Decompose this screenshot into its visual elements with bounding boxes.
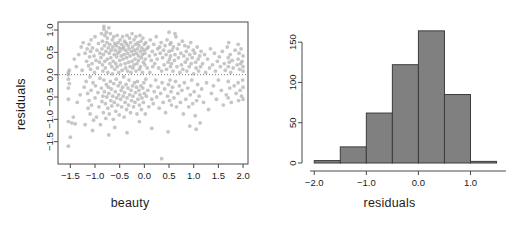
scatter-point — [67, 82, 71, 86]
scatter-point — [186, 86, 190, 90]
scatter-point — [218, 65, 222, 69]
scatter-x-axis-title: beauty — [0, 196, 260, 210]
scatter-point — [115, 96, 119, 100]
scatter-point — [101, 94, 105, 98]
scatter-point — [144, 94, 148, 98]
scatter-point — [219, 88, 223, 92]
scatter-point — [124, 66, 128, 70]
scatter-point — [121, 94, 125, 98]
scatter-point — [102, 78, 106, 82]
scatter-point — [164, 53, 168, 57]
scatter-point — [143, 112, 147, 116]
scatter-point — [101, 69, 105, 73]
scatter-point — [122, 75, 126, 79]
scatter-x-tick-label: −1.0 — [86, 170, 105, 181]
scatter-point — [225, 45, 229, 49]
scatter-point — [87, 64, 91, 68]
scatter-point — [102, 111, 106, 115]
scatter-point — [181, 112, 185, 116]
scatter-point — [98, 60, 102, 64]
scatter-point — [150, 50, 154, 54]
scatter-point — [89, 88, 93, 92]
scatter-point — [209, 47, 213, 51]
scatter-point — [136, 79, 140, 83]
scatter-point — [167, 83, 171, 87]
scatter-point — [128, 36, 132, 40]
scatter-point — [199, 50, 203, 54]
scatter-point — [68, 135, 72, 139]
scatter-point — [137, 59, 141, 63]
histogram-x-axis-title: residuals — [260, 196, 519, 210]
scatter-point — [124, 48, 128, 52]
scatter-point — [131, 84, 135, 88]
scatter-point — [171, 69, 175, 73]
scatter-point — [112, 100, 116, 104]
scatter-x-tick-label: 0.5 — [162, 170, 175, 181]
scatter-point — [111, 45, 115, 49]
scatter-point — [99, 56, 103, 60]
scatter-point — [180, 39, 184, 43]
scatter-point — [176, 92, 180, 96]
scatter-point — [141, 36, 145, 40]
scatter-point — [121, 35, 125, 39]
scatter-point — [122, 45, 126, 49]
scatter-point — [170, 103, 174, 107]
scatter-point — [66, 73, 70, 77]
scatter-point — [129, 111, 133, 115]
scatter-point — [70, 121, 74, 125]
scatter-y-tick-label: −1.0 — [44, 110, 55, 129]
scatter-point — [104, 50, 108, 54]
scatter-point — [108, 79, 112, 83]
scatter-point — [87, 99, 91, 103]
scatter-point — [169, 90, 173, 94]
scatter-point — [92, 118, 96, 122]
scatter-point — [89, 38, 93, 42]
scatter-point — [149, 59, 153, 63]
scatter-point — [155, 57, 159, 61]
scatter-point — [123, 62, 127, 66]
scatter-point — [111, 117, 115, 121]
scatter-point — [103, 102, 107, 106]
scatter-point — [123, 91, 127, 95]
scatter-point — [241, 69, 245, 73]
histogram-bar — [392, 65, 418, 163]
scatter-point — [162, 63, 166, 67]
scatter-point — [221, 103, 225, 107]
scatter-point — [195, 45, 199, 49]
scatter-point — [88, 55, 92, 59]
scatter-point — [165, 67, 169, 71]
scatter-point — [131, 94, 135, 98]
scatter-point — [230, 59, 234, 63]
scatter-point — [174, 79, 178, 83]
scatter-point — [194, 66, 198, 70]
scatter-point — [121, 57, 125, 61]
scatter-point — [215, 97, 219, 101]
scatter-point — [206, 57, 210, 61]
scatter-point — [129, 88, 133, 92]
scatter-point — [102, 44, 106, 48]
scatter-point — [241, 78, 245, 82]
scatter-point — [207, 108, 211, 112]
scatter-x-tick-label: 2.0 — [236, 170, 249, 181]
scatter-point — [113, 48, 117, 52]
scatter-point — [94, 59, 98, 63]
scatter-point — [110, 65, 114, 69]
scatter-point — [241, 85, 245, 89]
scatter-point — [105, 57, 109, 61]
scatter-point — [144, 77, 148, 81]
scatter-point — [237, 99, 241, 103]
scatter-point — [240, 59, 244, 63]
scatter-point — [105, 36, 109, 40]
scatter-point — [143, 57, 147, 61]
scatter-point — [155, 95, 159, 99]
scatter-point — [113, 90, 117, 94]
scatter-point — [147, 105, 151, 109]
scatter-y-tick-label: 0.5 — [44, 46, 55, 59]
scatter-point — [108, 42, 112, 46]
scatter-point — [184, 97, 188, 101]
scatter-point — [105, 95, 109, 99]
scatter-point — [177, 42, 181, 46]
scatter-point — [106, 106, 110, 110]
scatter-point — [204, 71, 208, 75]
scatter-point — [241, 54, 245, 58]
